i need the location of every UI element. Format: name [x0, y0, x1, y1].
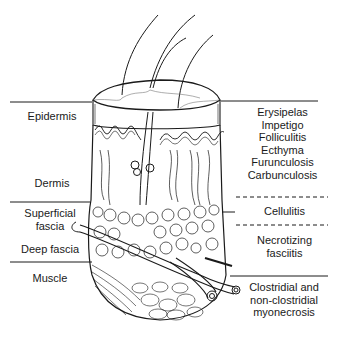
myonecrosis-line1: Clostridial and: [236, 281, 332, 294]
myonecrosis-line2: non-clostridial: [236, 294, 332, 307]
label-muscle: Muscle: [18, 272, 82, 285]
necrotizing-line2: fasciitis: [242, 247, 327, 260]
necrotizing-line1: Necrotizing: [242, 234, 327, 247]
skin-surface-top: [93, 80, 220, 110]
infection-furunculosis: Furunculosis: [240, 156, 325, 169]
hair: [150, 15, 195, 88]
infection-carbunculosis: Carbunculosis: [240, 169, 325, 182]
infection-erysipelas: Erysipelas: [240, 106, 325, 119]
sebaceous-gland: [131, 161, 139, 169]
label-superficial-line1: Superficial: [15, 207, 85, 220]
epidermis-band: [93, 100, 220, 129]
label-epidermal-infections: Erysipelas Impetigo Folliculitis Ecthyma…: [240, 106, 325, 181]
infection-impetigo: Impetigo: [240, 119, 325, 132]
label-superficial-line2: fascia: [15, 220, 85, 233]
infection-ecthyma: Ecthyma: [240, 144, 325, 157]
label-necrotizing-fasciitis: Necrotizing fasciitis: [242, 234, 327, 259]
label-epidermis: Epidermis: [22, 110, 82, 123]
infection-folliculitis: Folliculitis: [240, 131, 325, 144]
label-myonecrosis: Clostridial and non-clostridial myonecro…: [236, 281, 332, 319]
hair-follicle: [140, 112, 153, 205]
label-deep-fascia: Deep fascia: [12, 243, 88, 256]
fat-lobules: [93, 205, 219, 258]
myonecrosis-line3: myonecrosis: [236, 306, 332, 319]
label-superficial-fascia: Superficial fascia: [15, 207, 85, 232]
label-cellulitis: Cellulitis: [242, 205, 327, 218]
cylinder-left-edge: [89, 125, 227, 320]
label-dermis: Dermis: [22, 177, 82, 190]
